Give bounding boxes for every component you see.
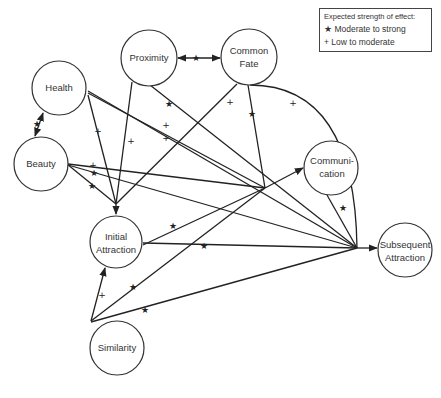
legend-item-strong: ★ Moderate to strong [324, 24, 427, 34]
star-mark: ★ [33, 119, 41, 129]
svg-text:Attraction: Attraction [385, 252, 425, 263]
node-communication: Communi- cation [304, 141, 358, 195]
legend-label: Low to moderate [331, 37, 394, 47]
plus-mark: + [98, 290, 106, 300]
node-initial-attraction: Initial Attraction [90, 216, 142, 268]
legend-item-low: + Low to moderate [324, 37, 427, 47]
path-diagram: ★ ★ + + ★ + ★ + + + + ★ ★ ★ ★ ★ + ★ ★ He… [0, 0, 441, 398]
svg-text:Fate: Fate [239, 58, 258, 69]
star-mark: ★ [200, 241, 208, 251]
star-icon: ★ [324, 24, 332, 34]
plus-icon: + [324, 37, 329, 47]
node-proximity: Proximity [121, 30, 177, 86]
svg-text:Attraction: Attraction [96, 244, 136, 255]
edge-commonfate-communication [248, 85, 265, 188]
legend-title: Expected strength of effect: [324, 12, 427, 21]
svg-text:Subsequent: Subsequent [380, 239, 431, 250]
edge-initial-subsequent [143, 243, 357, 248]
plus-mark: + [289, 98, 297, 108]
node-similarity: Similarity [90, 321, 144, 375]
plus-mark: + [162, 120, 170, 130]
svg-text:cation: cation [319, 168, 344, 179]
plus-mark: + [162, 133, 170, 143]
star-mark: ★ [192, 53, 200, 63]
plus-mark: + [94, 126, 102, 136]
svg-text:Communi-: Communi- [310, 155, 354, 166]
star-mark: ★ [88, 181, 96, 191]
star-mark: ★ [129, 282, 137, 292]
svg-text:Similarity: Similarity [98, 342, 137, 353]
plus-mark: + [226, 97, 234, 107]
star-mark: ★ [169, 221, 177, 231]
svg-text:Proximity: Proximity [129, 52, 168, 63]
svg-text:Beauty: Beauty [26, 158, 56, 169]
svg-text:Initial: Initial [105, 231, 127, 242]
star-mark: ★ [339, 203, 347, 213]
star-mark: ★ [141, 305, 149, 315]
node-subsequent-attraction: Subsequent Attraction [378, 223, 432, 277]
node-health: Health [32, 61, 86, 115]
edge-health-communication [88, 93, 265, 188]
node-common-fate: Common Fate [221, 29, 277, 85]
edge-communication-hub-arrow [265, 168, 303, 188]
svg-text:Health: Health [45, 82, 72, 93]
legend-label: Moderate to strong [334, 24, 405, 34]
svg-text:Common: Common [230, 45, 269, 56]
star-mark: ★ [165, 99, 173, 109]
star-mark: ★ [248, 109, 256, 119]
legend: Expected strength of effect: ★ Moderate … [319, 8, 432, 52]
plus-mark: + [127, 136, 135, 146]
node-beauty: Beauty [14, 137, 68, 191]
star-mark: ★ [90, 168, 98, 178]
